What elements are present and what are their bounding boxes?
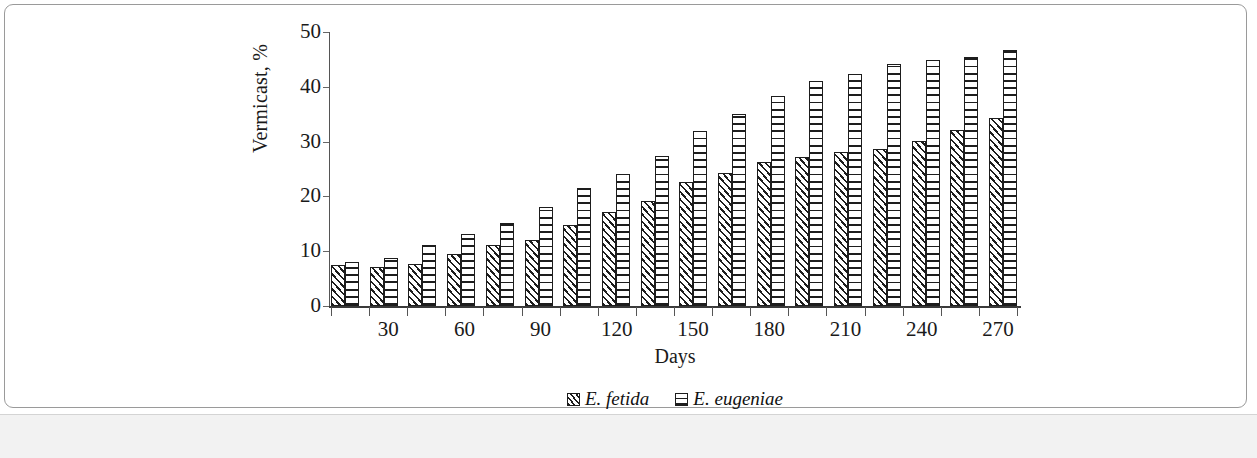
figure-root: Vermicast, % 01020304050 306090120150180… [0,0,1257,458]
x-axis-tick-label: 90 [511,317,571,342]
bar-eugeniae [848,74,862,306]
bar-group [602,174,630,306]
bar-group [873,64,901,306]
x-axis-tick [598,307,599,316]
plot-area [329,32,1019,306]
bar-series-container [329,32,1019,306]
x-axis-tick [788,307,789,316]
bar-group [795,81,823,306]
bar-group [679,131,707,306]
figure-panel: Vermicast, % 01020304050 306090120150180… [4,4,1247,408]
bar-group [447,234,475,306]
bar-eugeniae [964,57,978,306]
x-axis-tick [1017,307,1018,316]
caption-bar: Figure 1 Vermicast generated, as a perce… [0,414,1257,458]
bar-fetida [641,201,655,306]
x-axis-tick [712,307,713,316]
bar-fetida [718,173,732,306]
bar-fetida [370,267,384,306]
bar-eugeniae [655,156,669,306]
x-axis-tick [750,307,751,316]
bar-eugeniae [887,64,901,306]
bar-fetida [873,149,887,306]
y-axis-tick-label: 50 [273,21,321,42]
x-axis-tick-label: 30 [358,317,418,342]
x-axis-tick [445,307,446,316]
bar-fetida [989,118,1003,306]
x-axis-tick [826,307,827,316]
legend-item: E. eugeniae [675,388,783,410]
bar-group [408,245,436,306]
bar-fetida [950,130,964,306]
bar-group [757,96,785,306]
y-axis-tick-label: 20 [273,185,321,206]
legend-label: E. fetida [585,388,649,410]
bar-eugeniae [461,234,475,306]
legend-label: E. eugeniae [693,388,783,410]
x-axis-tick-label: 210 [816,317,876,342]
bar-eugeniae [926,60,940,306]
x-axis-tick [331,307,332,316]
x-axis-tick-label: 120 [587,317,647,342]
y-axis-tick-label: 10 [273,240,321,261]
y-axis-tick-label: 40 [273,76,321,97]
bar-eugeniae [539,207,553,306]
bar-eugeniae [732,114,746,306]
x-axis-tick [369,307,370,316]
x-axis-tick [407,307,408,316]
x-axis-tick [483,307,484,316]
x-axis-tick-label: 150 [663,317,723,342]
x-axis-tick [674,307,675,316]
bar-group [563,188,591,306]
x-axis-tick [941,307,942,316]
bar-fetida [912,141,926,306]
chart-legend: E. fetidaE. eugeniae [329,388,1021,410]
x-axis-tick-label: 60 [434,317,494,342]
bar-fetida [795,157,809,306]
x-axis-tick-label: 270 [968,317,1028,342]
x-axis-tick [522,307,523,316]
bar-group [718,114,746,306]
x-axis-tick-labels: 306090120150180210240270 [329,317,1021,347]
bar-fetida [331,265,345,306]
bar-eugeniae [771,96,785,306]
bar-fetida [834,152,848,306]
bar-eugeniae [616,174,630,306]
y-axis-tick-labels: 01020304050 [263,5,321,335]
bar-group [834,74,862,306]
bar-group [331,262,359,306]
bar-fetida [602,212,616,306]
y-axis-tick-label: 0 [273,295,321,316]
x-axis-ticks [329,307,1021,316]
x-axis-tick [865,307,866,316]
bar-group [486,223,514,306]
y-axis-tick-label: 30 [273,131,321,152]
bar-group [950,57,978,306]
bar-fetida [486,245,500,306]
x-axis-tick [560,307,561,316]
bar-group [989,50,1017,306]
bar-eugeniae [693,131,707,306]
bar-fetida [408,264,422,306]
bar-fetida [757,162,771,306]
legend-item: E. fetida [567,388,649,410]
legend-swatch-eugeniae-icon [675,393,688,406]
bar-eugeniae [345,262,359,306]
bar-fetida [563,225,577,306]
bar-fetida [679,182,693,306]
bar-eugeniae [500,223,514,306]
bar-eugeniae [1003,50,1017,306]
legend-swatch-fetida-icon [567,393,580,406]
x-axis-tick [903,307,904,316]
bar-eugeniae [577,188,591,306]
bar-fetida [447,254,461,306]
bar-group [912,60,940,306]
x-axis-tick [979,307,980,316]
bar-group [370,258,398,306]
bar-group [525,207,553,306]
bar-eugeniae [422,245,436,306]
bar-eugeniae [809,81,823,306]
x-axis-tick-label: 180 [739,317,799,342]
bar-fetida [525,240,539,306]
x-axis-tick [636,307,637,316]
